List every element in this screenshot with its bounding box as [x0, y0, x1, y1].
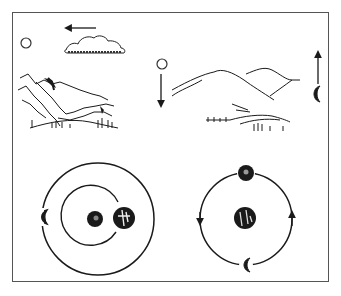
panel-top-left — [18, 28, 125, 128]
earth-icon — [234, 207, 256, 229]
panel-bottom-left — [40, 163, 154, 275]
cloud-icon — [65, 36, 125, 53]
sun-icon — [21, 38, 31, 48]
diagram-canvas — [0, 0, 341, 296]
sun-icon — [157, 59, 167, 69]
panel-top-right — [157, 54, 320, 131]
rocky-mountains-icon — [18, 74, 118, 128]
panel-bottom-right — [200, 164, 292, 272]
rolling-mountains-icon — [172, 68, 300, 124]
crescent-moon-icon — [314, 86, 320, 102]
